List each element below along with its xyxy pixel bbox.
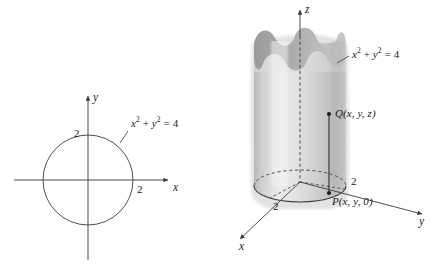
point-P-name: P (332, 195, 339, 207)
equation-plus-3d: + (361, 48, 373, 60)
x-axis-label-3d: x (239, 241, 244, 253)
point-Q-name: Q (335, 107, 343, 119)
point-Q-marker (327, 112, 331, 116)
z-axis-label-3d: z (305, 4, 309, 16)
xy-plane-circle-diagram: x2 + y2 = 4 x y 2 2 (0, 0, 215, 265)
equation-equals-3d: = 4 (382, 48, 400, 60)
y-tick-label-2d: 2 (74, 128, 80, 139)
x-axis-label-2d: x (173, 182, 178, 194)
point-Q-label: Q(x, y, z) (335, 108, 376, 119)
equation-equals-2d: = 4 (161, 117, 179, 129)
equation-leader-line-2d (120, 131, 128, 143)
point-P-marker (327, 191, 331, 195)
x-tick-label-2d: 2 (137, 184, 143, 195)
point-Q-coords: (x, y, z) (343, 107, 376, 119)
point-P-label: P(x, y, 0) (332, 196, 373, 207)
cylinder-svg (215, 0, 439, 265)
y-axis-label-3d: y (419, 216, 424, 228)
equation-label-3d: x2 + y2 = 4 (352, 49, 399, 60)
equation-label-2d: x2 + y2 = 4 (131, 118, 178, 129)
x-tick-label-3d: 2 (273, 201, 279, 212)
point-P-coords: (x, y, 0) (339, 195, 373, 207)
y-tick-label-3d: 2 (351, 176, 357, 187)
figure-root: x2 + y2 = 4 x y 2 2 (0, 0, 439, 265)
equation-plus-2d: + (140, 117, 152, 129)
cylinder-diagram: x2 + y2 = 4 Q(x, y, z) P(x, y, 0) z y x … (215, 0, 439, 265)
y-axis-label-2d: y (93, 92, 98, 104)
circle-svg (0, 0, 215, 265)
